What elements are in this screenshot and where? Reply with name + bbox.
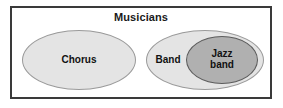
set-label-jazz-band-line-1: Jazz bbox=[186, 48, 258, 59]
universe-title: Musicians bbox=[10, 11, 272, 23]
set-label-jazz-band: Jazz band bbox=[186, 48, 258, 70]
set-label-chorus: Chorus bbox=[22, 54, 136, 65]
set-label-jazz-band-line-2: band bbox=[186, 59, 258, 70]
venn-diagram: Musicians Chorus Band Jazz band bbox=[0, 0, 283, 108]
set-label-band: Band bbox=[148, 54, 188, 65]
